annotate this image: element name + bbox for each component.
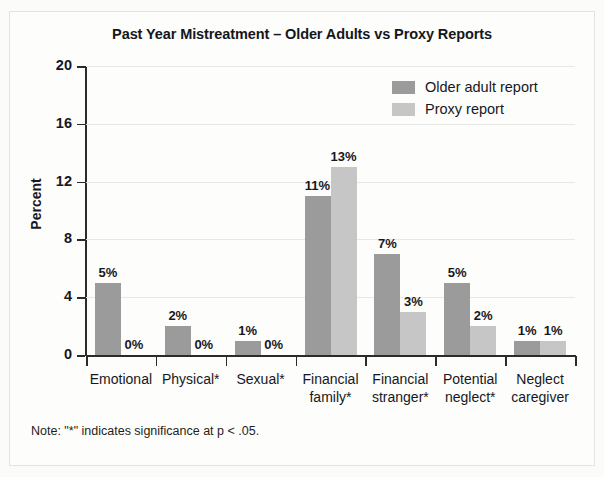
x-axis-tick: [226, 356, 228, 366]
x-axis-tick: [365, 356, 367, 366]
x-axis-category-line: caregiver: [499, 388, 581, 406]
x-axis-tick: [505, 356, 507, 366]
bar-value-label: 2%: [158, 308, 198, 323]
bar: [540, 341, 566, 355]
bar-value-label: 13%: [324, 149, 364, 164]
figure-note: Note: "*" indicates significance at p < …: [31, 424, 259, 438]
x-axis-tick: [435, 356, 437, 366]
bar: [470, 326, 496, 355]
legend-label: Older adult report: [425, 79, 538, 95]
y-axis-title: Percent: [28, 159, 44, 249]
x-axis-category-label: Neglectcaregiver: [499, 370, 581, 406]
x-axis-line: [86, 355, 576, 357]
chart-title: Past Year Mistreatment – Older Adults vs…: [0, 26, 604, 42]
x-axis-tick: [156, 356, 158, 366]
figure-canvas: Past Year Mistreatment – Older Adults vs…: [0, 0, 604, 477]
x-axis-tick: [296, 356, 298, 366]
bar-value-label: 1%: [533, 323, 573, 338]
bar-value-label: 1%: [228, 323, 268, 338]
bar-value-label: 7%: [367, 236, 407, 251]
chart-legend: Older adult report Proxy report: [392, 76, 572, 120]
bar: [305, 196, 331, 355]
legend-swatch-proxy-report: [392, 103, 415, 116]
gridline: [86, 124, 575, 125]
bar-value-label: 5%: [88, 265, 128, 280]
x-axis-tick: [86, 356, 88, 366]
bar-value-label: 0%: [184, 337, 224, 352]
bar-value-label: 3%: [393, 294, 433, 309]
bar-value-label: 0%: [114, 337, 154, 352]
bar: [400, 312, 426, 355]
legend-label: Proxy report: [425, 101, 504, 117]
x-axis-category-line: Neglect: [499, 370, 581, 388]
legend-item: Older adult report: [392, 76, 572, 98]
legend-item: Proxy report: [392, 98, 572, 120]
bar: [331, 167, 357, 355]
x-axis-tick: [575, 356, 577, 366]
bar-value-label: 5%: [437, 265, 477, 280]
bar-value-label: 0%: [254, 337, 294, 352]
gridline: [86, 66, 575, 67]
legend-swatch-older-adult-report: [392, 81, 415, 94]
bar-value-label: 2%: [463, 308, 503, 323]
bar: [514, 341, 540, 355]
